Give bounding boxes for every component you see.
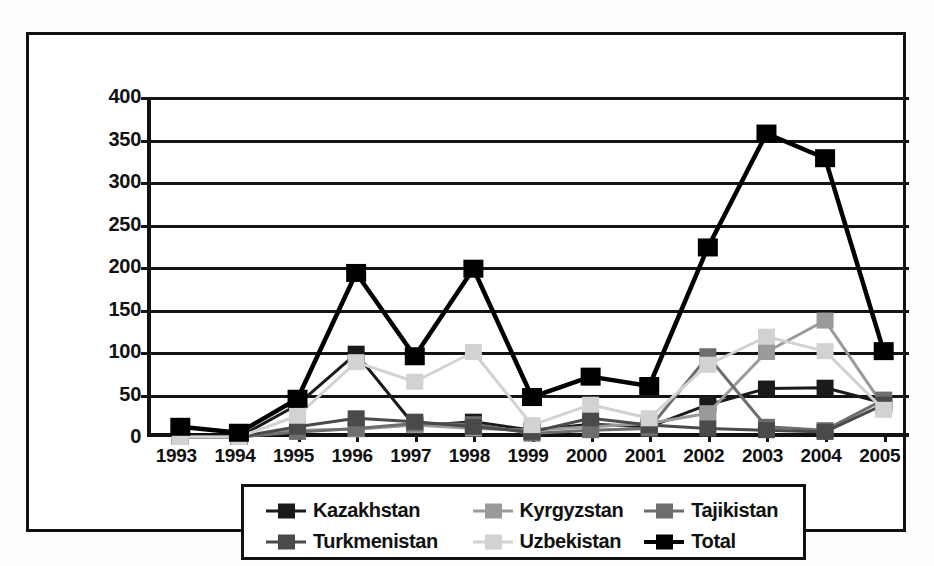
data-point-marker [699, 421, 716, 437]
legend-row: TurkmenistanUzbekistanTotal [266, 526, 789, 557]
data-point-marker [875, 402, 892, 418]
legend-label: Turkmenistan [313, 530, 438, 553]
legend-item-kazakhstan[interactable]: Kazakhstan [266, 499, 473, 522]
x-axis-tick-label: 2002 [683, 445, 724, 467]
data-point-marker [756, 125, 776, 143]
data-point-marker [817, 424, 834, 440]
legend-marker-icon [473, 502, 513, 520]
legend-label: Total [691, 530, 735, 553]
data-point-marker [874, 342, 894, 360]
legend-label: Kazakhstan [313, 499, 420, 522]
y-axis-tick-label: 100 [109, 340, 141, 363]
x-axis-tick-label: 2000 [566, 445, 607, 467]
y-axis-labels: 050100150200250300350400 [85, 97, 141, 437]
data-point-marker [582, 397, 599, 413]
data-point-marker [817, 313, 834, 329]
legend-marker-icon [266, 502, 306, 520]
data-point-marker [758, 329, 775, 345]
data-point-marker [581, 368, 601, 386]
data-point-marker [699, 357, 716, 373]
data-point-marker [699, 405, 716, 421]
data-point-marker [758, 344, 775, 360]
data-point-marker [288, 390, 308, 408]
x-axis-tick-label: 2004 [801, 445, 842, 467]
data-point-marker [817, 343, 834, 359]
y-axis-tick-label: 150 [109, 298, 141, 321]
data-point-marker [346, 264, 366, 282]
y-axis-tick-label: 300 [109, 170, 141, 193]
legend-item-turkmenistan[interactable]: Turkmenistan [266, 530, 473, 553]
data-point-marker [758, 422, 775, 438]
legend-marker-icon [644, 533, 684, 551]
data-point-marker [463, 260, 483, 278]
data-point-marker [817, 380, 834, 396]
x-axis-labels: 1993199419951996199719981999200020012002… [147, 445, 909, 475]
x-axis-tick-label: 1994 [214, 445, 255, 467]
x-axis-tick-label: 1996 [332, 445, 373, 467]
legend-marker-icon [473, 533, 513, 551]
legend-row: KazakhstanKyrgyzstanTajikistan [266, 495, 789, 526]
x-axis-tick-label: 2003 [742, 445, 783, 467]
chart-page: 050100150200250300350400 199319941995199… [0, 0, 934, 566]
y-axis-tick-label: 400 [109, 85, 141, 108]
x-axis-tick-label: 2001 [625, 445, 666, 467]
y-axis-tick-label: 250 [109, 213, 141, 236]
legend-label: Uzbekistan [520, 530, 622, 553]
legend-item-uzbekistan[interactable]: Uzbekistan [473, 530, 645, 553]
legend-label: Kyrgyzstan [520, 499, 624, 522]
data-point-marker [348, 354, 365, 370]
y-axis-tick-label: 0 [130, 425, 141, 448]
data-point-marker [465, 419, 482, 435]
x-axis-tick-label: 1998 [449, 445, 490, 467]
data-point-marker [406, 374, 423, 390]
data-point-marker [815, 149, 835, 167]
x-axis-tick-label: 1995 [273, 445, 314, 467]
legend-item-total[interactable]: Total [644, 530, 789, 553]
legend-item-tajikistan[interactable]: Tajikistan [644, 499, 789, 522]
y-axis-tick-label: 350 [109, 128, 141, 151]
legend-marker-icon [644, 502, 684, 520]
legend-label: Tajikistan [691, 499, 778, 522]
y-axis-tick-label: 50 [119, 383, 141, 406]
data-point-marker [405, 347, 425, 365]
data-point-marker [406, 414, 423, 430]
x-axis-tick-label: 1997 [390, 445, 431, 467]
data-point-marker [698, 238, 718, 256]
chart-legend: KazakhstanKyrgyzstanTajikistanTurkmenist… [241, 484, 806, 560]
x-axis-tick-label: 1999 [507, 445, 548, 467]
series-layer [151, 97, 913, 437]
data-point-marker [289, 408, 306, 424]
y-axis-tick-label: 200 [109, 255, 141, 278]
data-point-marker [348, 410, 365, 426]
data-point-marker [524, 417, 541, 433]
data-point-marker [522, 388, 542, 406]
x-axis-tick-label: 1993 [156, 445, 197, 467]
x-axis-tick-label: 2005 [859, 445, 900, 467]
data-point-marker [465, 344, 482, 360]
plot-area [147, 97, 909, 437]
data-point-marker [758, 381, 775, 397]
data-point-marker [641, 410, 658, 426]
data-point-marker [229, 424, 249, 442]
legend-marker-icon [266, 533, 306, 551]
data-point-marker [639, 377, 659, 395]
data-point-marker [170, 418, 190, 436]
chart-frame: 050100150200250300350400 199319941995199… [26, 32, 906, 532]
legend-item-kyrgyzstan[interactable]: Kyrgyzstan [473, 499, 645, 522]
series-total [170, 125, 893, 442]
